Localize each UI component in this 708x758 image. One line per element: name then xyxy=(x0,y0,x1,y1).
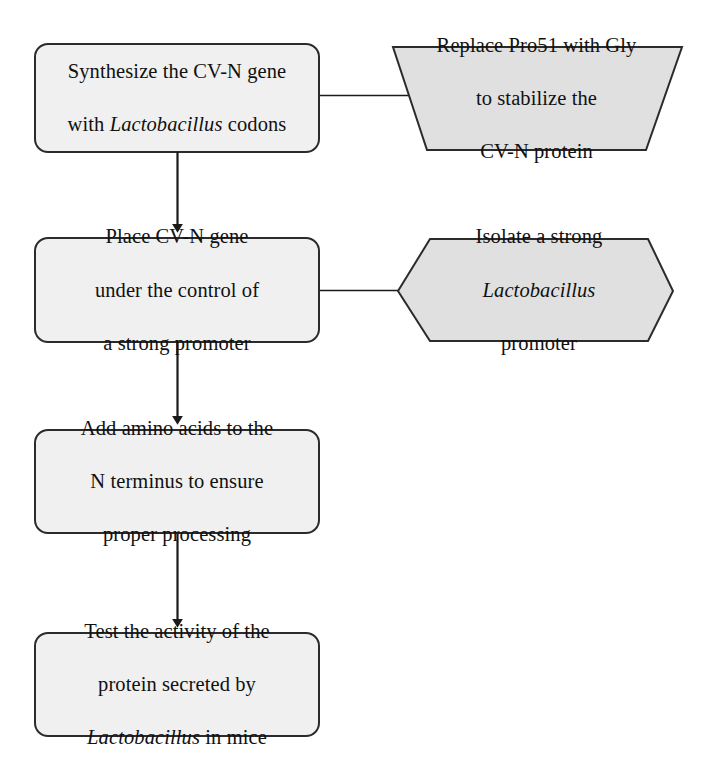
step-4-label: Test the activity of the protein secrete… xyxy=(35,633,319,736)
step-1-label: Synthesize the CV-N gene with Lactobacil… xyxy=(35,44,319,152)
step-4-line-2: protein secreted by xyxy=(84,671,269,698)
aside-2-label: Isolate a strong Lactobacillus promoter xyxy=(430,239,648,341)
step-2-line-1: Place CV-N gene xyxy=(95,223,259,250)
step-2-line-2: under the control of xyxy=(95,277,259,304)
aside-1-line-2: to stabilize the xyxy=(437,85,637,112)
step-3-line-3: proper processing xyxy=(81,521,273,548)
step-1-line-1: Synthesize the CV-N gene xyxy=(68,58,287,85)
aside-2-line-1: Isolate a strong xyxy=(476,223,603,250)
aside-1-line-3: CV-N protein xyxy=(437,138,637,165)
step-4-line-3-italic: Lactobacillus xyxy=(87,726,200,748)
flowchart-diagram: Synthesize the CV-N gene with Lactobacil… xyxy=(0,0,708,758)
step-2-label: Place CV-N gene under the control of a s… xyxy=(35,238,319,342)
step-2-line-3: a strong promoter xyxy=(95,330,259,357)
step-4-line-1: Test the activity of the xyxy=(84,618,269,645)
aside-1-line-1: Replace Pro51 with Gly xyxy=(437,32,637,59)
step-4-line-3-post: in mice xyxy=(200,726,267,748)
step-1-line-2-post: codons xyxy=(223,113,287,135)
step-3-line-2: N terminus to ensure xyxy=(81,468,273,495)
step-3-label: Add amino acids to the N terminus to ens… xyxy=(35,430,319,533)
step-1-line-2-pre: with xyxy=(68,113,110,135)
aside-2-line-3: promoter xyxy=(476,330,603,357)
step-1-line-2: with Lactobacillus codons xyxy=(68,111,287,138)
aside-1-label: Replace Pro51 with Gly to stabilize the … xyxy=(427,47,646,150)
aside-2-line-2: Lactobacillus xyxy=(476,277,603,304)
step-1-line-2-italic: Lactobacillus xyxy=(110,113,223,135)
step-3-line-1: Add amino acids to the xyxy=(81,415,273,442)
step-4-line-3: Lactobacillus in mice xyxy=(84,724,269,751)
